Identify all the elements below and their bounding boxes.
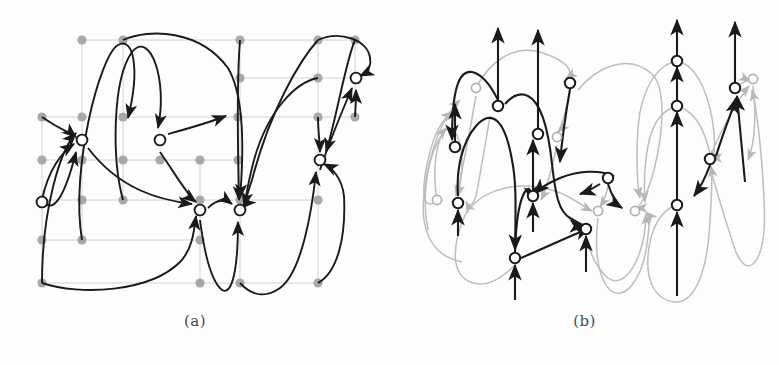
vertex-b-g6 [748,74,757,83]
vertex-b-b10 [672,56,682,66]
vertex-b-b2 [453,198,463,208]
vertex-b-b12 [672,200,682,210]
vertex-b-g4 [593,206,602,215]
vertex-b-b8 [510,253,520,263]
vertex-a-v3 [37,197,48,208]
vertex-b-g1 [432,195,441,204]
vertex-b-g3 [552,132,561,141]
vertex-b-b6 [528,191,538,201]
vertex-a-v6 [315,155,326,166]
vertex-b-b1 [450,142,460,152]
vertex-b-b13 [730,83,740,93]
graph-drawing-a [0,0,390,312]
vertex-b-b9 [581,224,591,234]
vertex-a-v4 [195,205,206,216]
vertex-b-b3 [493,101,503,111]
vertex-a-v5 [235,205,246,216]
vertices-b-light [432,74,757,215]
figure-root: (a) [0,0,779,365]
panel-a-grid-drawing: (a) [0,0,390,340]
vertex-b-b4 [565,78,575,88]
vertex-a-v1 [77,135,88,146]
vertices-b-dark [450,56,740,263]
caption-b: (b) [390,312,779,330]
grid-dots-a [37,35,359,287]
vertex-b-b14 [705,154,715,164]
vertex-b-b7 [603,173,613,183]
vertex-b-g2 [471,83,480,92]
vertex-b-b5 [533,129,543,139]
vertex-a-v2 [155,135,166,146]
panel-b-upward-drawing: (b) [390,0,779,340]
vertex-b-b11 [672,101,682,111]
vertex-b-g5 [630,206,639,215]
caption-a: (a) [0,312,390,330]
graph-drawing-b [390,0,779,312]
vertex-a-v7 [351,73,362,84]
